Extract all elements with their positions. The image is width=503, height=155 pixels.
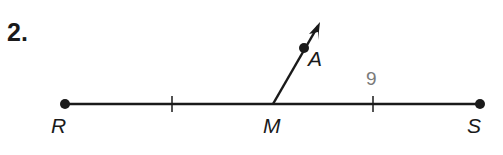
measurement-label: 9 <box>366 68 377 90</box>
segment-diagram <box>0 0 503 155</box>
label-s: S <box>467 114 481 138</box>
label-r: R <box>51 114 66 138</box>
point-r <box>60 99 70 109</box>
label-a: A <box>308 47 322 71</box>
label-m: M <box>263 114 281 138</box>
point-s <box>475 99 485 109</box>
